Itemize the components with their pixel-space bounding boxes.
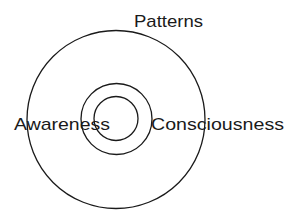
label-consciousness: Consciousness bbox=[151, 115, 284, 134]
label-awareness: Awareness bbox=[14, 115, 110, 134]
concentric-circles-diagram: Patterns Awareness Consciousness bbox=[0, 0, 296, 224]
label-patterns: Patterns bbox=[134, 12, 203, 31]
